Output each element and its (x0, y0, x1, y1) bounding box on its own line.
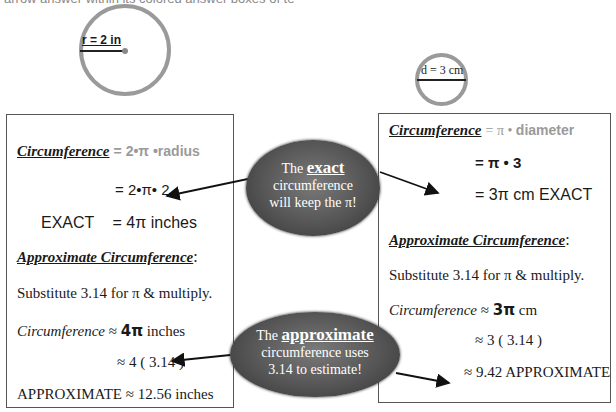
callout-line-2: circumference uses (230, 344, 400, 361)
callout-line-3: 3.14 to estimate! (230, 361, 400, 378)
callout-line-2: circumference (246, 177, 380, 194)
callout-the: The (256, 328, 281, 343)
exact-keyword: exact (307, 158, 345, 177)
exact-callout: The exact circumference will keep the π! (246, 140, 380, 236)
callout-line-3: will keep the π! (246, 194, 380, 211)
approximate-keyword: approximate (282, 325, 374, 344)
callout-the: The (281, 161, 306, 176)
approximate-callout: The approximate circumference uses 3.14 … (230, 312, 400, 397)
